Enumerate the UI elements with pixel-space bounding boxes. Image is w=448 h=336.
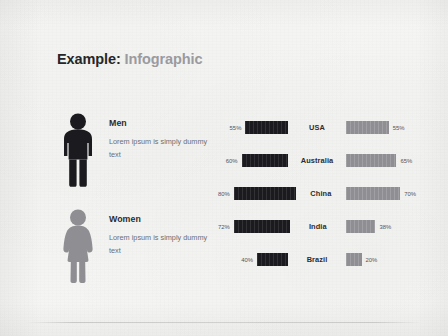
bar-men: [234, 220, 290, 233]
chart-row-women-side: 65%: [346, 154, 416, 167]
country-label: India: [290, 222, 346, 231]
persona-women-description: Lorem ipsum is simply dummy text: [109, 231, 213, 258]
page-title: Example: Infographic: [57, 51, 202, 67]
chart-row-women-side: 70%: [346, 187, 416, 200]
bar-value-women: 55%: [393, 125, 405, 131]
chart-row: 80% China 70%: [218, 183, 416, 204]
bar-men: [245, 121, 288, 134]
bar-women: [346, 253, 362, 266]
chart-row-women-side: 55%: [346, 121, 416, 134]
chart-row: 60% Australia 65%: [218, 150, 416, 171]
persona-women-title: Women: [109, 214, 213, 224]
bar-men: [242, 154, 289, 167]
bar-value-women: 70%: [404, 191, 416, 197]
bar-value-men: 60%: [226, 158, 238, 164]
bar-women: [346, 187, 400, 200]
bar-women: [346, 220, 375, 233]
persona-card-men: Men Lorem ipsum is simply dummy text: [58, 112, 213, 190]
persona-men-title: Men: [109, 118, 213, 128]
page-title-primary: Example:: [57, 51, 121, 67]
chart-row-men-side: 40%: [218, 253, 288, 266]
bar-value-men: 72%: [218, 224, 230, 230]
chart-row: 55% USA 55%: [218, 117, 416, 138]
bar-value-men: 80%: [218, 191, 230, 197]
bar-men: [257, 253, 288, 266]
chart-row-men-side: 60%: [218, 154, 288, 167]
chart-row-men-side: 55%: [218, 121, 288, 134]
chart-row-women-side: 20%: [346, 253, 416, 266]
persona-men-text-block: Men Lorem ipsum is simply dummy text: [109, 112, 213, 162]
diverging-bar-chart: 55% USA 55% 60% Australia 65% 80%: [218, 117, 416, 270]
country-label: USA: [288, 123, 346, 132]
bar-women: [346, 121, 389, 134]
persona-men-description: Lorem ipsum is simply dummy text: [109, 135, 213, 162]
chart-row: 40% Brazil 20%: [218, 249, 416, 270]
bar-value-women: 20%: [366, 257, 378, 263]
bar-value-women: 38%: [379, 224, 391, 230]
infographic-slide: Example: Infographic Men Lorem ipsum is …: [0, 0, 448, 336]
bar-value-women: 65%: [400, 158, 412, 164]
bar-value-men: 40%: [241, 257, 253, 263]
bar-men: [234, 187, 296, 200]
female-figure-icon: [58, 208, 98, 286]
bar-women: [346, 154, 396, 167]
chart-row-men-side: 80%: [218, 187, 296, 200]
chart-row-men-side: 72%: [218, 220, 290, 233]
bar-value-men: 55%: [230, 125, 242, 131]
chart-row: 72% India 38%: [218, 216, 416, 237]
persona-card-women: Women Lorem ipsum is simply dummy text: [58, 208, 213, 286]
footer-divider: [26, 322, 422, 323]
country-label: Brazil: [288, 255, 346, 264]
country-label: China: [296, 189, 346, 198]
persona-women-text-block: Women Lorem ipsum is simply dummy text: [109, 208, 213, 258]
page-title-secondary: Infographic: [125, 51, 203, 67]
country-label: Australia: [288, 156, 346, 165]
male-figure-icon: [58, 112, 98, 190]
chart-row-women-side: 38%: [346, 220, 416, 233]
